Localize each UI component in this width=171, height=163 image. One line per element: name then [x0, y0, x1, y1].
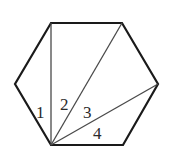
diagonal-2 — [51, 23, 122, 145]
angle-label-1: 1 — [36, 103, 45, 122]
angle-label-3: 3 — [83, 103, 92, 122]
angle-label-2: 2 — [60, 95, 69, 114]
hexagon-svg: 1 2 3 4 — [0, 0, 171, 163]
diagonal-3 — [51, 84, 158, 145]
hexagon-diagram: 1 2 3 4 — [0, 0, 171, 163]
angle-label-4: 4 — [93, 124, 102, 143]
